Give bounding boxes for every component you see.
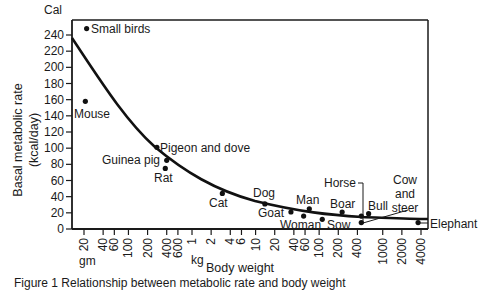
- label-boar: Boar: [330, 197, 355, 211]
- figure-caption: Figure 1 Relationship between metabolic …: [14, 276, 346, 290]
- y-tick-label: 140: [44, 109, 64, 123]
- data-point: [164, 158, 169, 163]
- data-point: [288, 209, 293, 214]
- label-dog: Dog: [253, 186, 275, 200]
- y-tick-label: 80: [51, 157, 65, 171]
- data-point: [84, 26, 89, 31]
- y-tick-label: 200: [44, 60, 64, 74]
- y-axis-label: Basal metabolic rate: [11, 83, 25, 196]
- label-sow: Sow: [327, 218, 351, 232]
- x-axis-ticks: 2040601002004006001246102040601002004001…: [77, 229, 428, 265]
- y-axis-unit: Cal: [44, 3, 62, 17]
- label-pigeon: Pigeon and dove: [160, 141, 250, 155]
- label-cow-line2: and: [395, 187, 415, 201]
- x-tick-label: 20: [268, 238, 282, 252]
- y-axis-ticks: 020406080100120140160180200220240: [44, 28, 72, 236]
- label-small-birds: Small birds: [91, 22, 150, 36]
- label-man: Man: [296, 193, 319, 207]
- x-tick-label: 2: [204, 238, 218, 245]
- x-tick-label: 60: [107, 238, 121, 252]
- y-axis-label-unit: (kcal/day): [27, 113, 41, 167]
- x-tick-label: 20: [77, 238, 91, 252]
- data-point: [83, 99, 88, 104]
- y-tick-label: 180: [44, 77, 64, 91]
- x-tick-label: 10: [249, 238, 263, 252]
- y-tick-label: 220: [44, 44, 64, 58]
- data-point: [359, 213, 364, 218]
- y-tick-label: 120: [44, 125, 64, 139]
- data-point: [154, 145, 159, 150]
- x-tick-label: 60: [298, 238, 312, 252]
- label-bull: Bull: [368, 199, 388, 213]
- label-elephant: Elephant: [430, 217, 478, 231]
- x-tick-label: 1: [185, 238, 199, 245]
- label-horse: Horse: [324, 176, 356, 190]
- label-cow-line1: Cow: [393, 173, 417, 187]
- x-tick-label: 100: [312, 238, 326, 258]
- y-tick-label: 0: [57, 222, 64, 236]
- y-tick-label: 240: [44, 28, 64, 42]
- x-tick-label: 100: [121, 238, 135, 258]
- label-woman: Woman: [280, 218, 321, 232]
- fit-curve: [72, 38, 428, 219]
- x-unit-kg: kg: [191, 253, 204, 267]
- y-tick-label: 60: [51, 174, 65, 188]
- x-tick-label: 1000: [376, 238, 390, 265]
- x-tick-label: 400: [350, 238, 364, 258]
- x-tick-label: 6: [234, 238, 248, 245]
- y-tick-label: 40: [51, 190, 65, 204]
- label-cow-line3: steer: [392, 201, 419, 215]
- x-tick-label: 4000: [414, 238, 428, 265]
- x-axis-label: Body weight: [206, 261, 275, 275]
- label-guinea-pig: Guinea pig: [102, 153, 160, 167]
- y-tick-label: 160: [44, 93, 64, 107]
- x-tick-label: 200: [331, 238, 345, 258]
- x-tick-label: 2000: [395, 238, 409, 265]
- label-rat: Rat: [154, 171, 173, 185]
- label-mouse: Mouse: [74, 107, 110, 121]
- data-point: [415, 220, 420, 225]
- x-tick-label: 600: [171, 238, 185, 258]
- x-tick-label: 200: [141, 238, 155, 258]
- label-cat: Cat: [209, 196, 228, 210]
- x-unit-gm: gm: [79, 254, 96, 268]
- y-tick-label: 100: [44, 141, 64, 155]
- data-point: [359, 220, 364, 225]
- y-tick-label: 20: [51, 206, 65, 220]
- plot-frame: [72, 20, 428, 229]
